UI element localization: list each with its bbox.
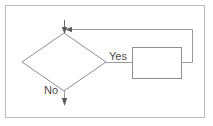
process-rectangle-node[interactable] <box>133 48 182 79</box>
entry-arrowhead-icon <box>62 27 67 34</box>
flowchart-canvas <box>0 0 213 126</box>
decision-diamond-node[interactable] <box>22 33 106 91</box>
no-branch-label: No <box>44 85 58 96</box>
flowchart-diagram: Yes No <box>0 0 213 126</box>
yes-branch-label: Yes <box>109 51 127 62</box>
no-arrowhead-icon <box>62 98 67 106</box>
